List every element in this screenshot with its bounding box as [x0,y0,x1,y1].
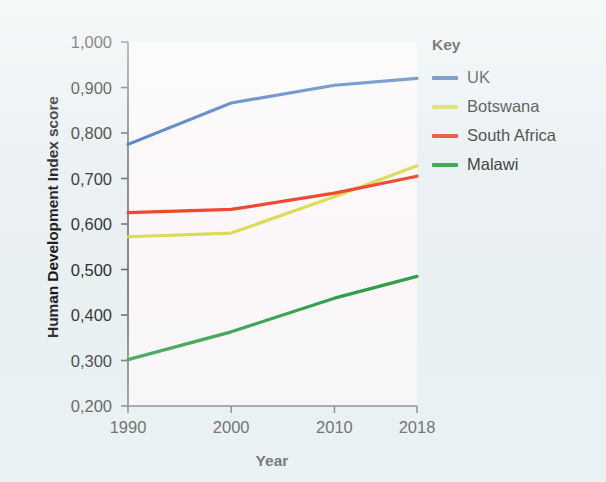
x-axis-title: Year [127,452,417,470]
legend-item-label: South Africa [467,126,556,145]
legend-item-label: UK [467,68,490,87]
legend-item-uk[interactable]: UK [432,63,602,92]
legend-swatch-icon [432,134,458,138]
legend-item-label: Botswana [467,97,539,116]
legend-item-malawi[interactable]: Malawi [432,150,602,179]
chart-figure: 0,2000,3000,4000,5000,6000,7000,8000,900… [0,0,606,482]
series-line-malawi [128,276,417,359]
legend-title: Key [432,36,602,54]
legend-item-label: Malawi [467,155,518,174]
legend-items: UKBotswanaSouth AfricaMalawi [432,63,602,179]
series-line-botswana [128,166,417,237]
data-series-lines [128,78,417,359]
legend-swatch-icon [432,76,458,80]
legend-swatch-icon [432,163,458,167]
series-line-uk [128,78,417,144]
legend-item-south-africa[interactable]: South Africa [432,121,602,150]
legend-item-botswana[interactable]: Botswana [432,92,602,121]
legend-swatch-icon [432,105,458,109]
legend: Key UKBotswanaSouth AfricaMalawi [432,36,602,179]
y-axis-title: Human Development Index score [44,52,62,382]
